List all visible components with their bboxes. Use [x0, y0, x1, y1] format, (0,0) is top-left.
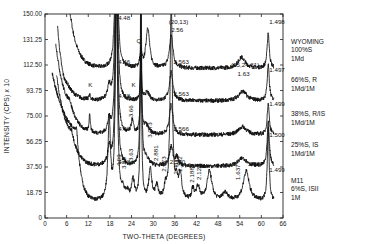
peak-label: 2.56 — [171, 26, 184, 33]
sample-label: 6%S, ISII — [291, 185, 319, 192]
y-tick-label: 93.75 — [26, 87, 42, 94]
sample-label: WYOMING — [291, 38, 324, 45]
sample-label: 66%S, R — [291, 76, 317, 83]
peak-label: 4.48 — [118, 92, 131, 99]
peak-label: Q — [137, 37, 142, 44]
peak-label-rotated: 2.382 — [176, 156, 183, 172]
peak-label: 2.566 — [173, 125, 189, 132]
y-tick-label: 131.25 — [23, 36, 43, 43]
peak-label-rotated: 3.073 — [146, 122, 153, 138]
peak-label: 4.48 — [118, 125, 131, 132]
sample-label: 1Md — [291, 55, 304, 62]
peak-label: K — [88, 81, 93, 88]
x-tick-label: 54 — [236, 220, 244, 227]
sample-label: 100%S — [291, 46, 313, 53]
y-tick-label: 112.50 — [23, 61, 42, 68]
peak-label: 1.497 — [269, 66, 285, 73]
peak-label-rotated: 2.673 — [160, 156, 167, 172]
x-axis: 0612182430364248546066 — [43, 14, 287, 227]
peak-label-rotated: 1.637 — [234, 164, 241, 180]
peak-label: 1.498 — [269, 18, 285, 25]
y-tick-label: 18.75 — [26, 189, 42, 196]
y-axis-title: INTENSITY (CPS) x 10 — [3, 79, 11, 154]
sample-label: 25%S, IS — [291, 141, 319, 148]
peak-label: (15,24,31) — [231, 61, 259, 68]
y-tick-label: 56.25 — [26, 138, 42, 145]
peak-label: 1.500 — [269, 131, 285, 138]
peak-label: (20,13) — [169, 18, 189, 25]
peak-label-rotated: 3.85 — [120, 156, 127, 169]
peak-label: 4.48 — [118, 14, 131, 21]
peak-label: 1.499 — [269, 100, 285, 107]
xrd-chart: 018.7537.5056.2575.0093.75112.50131.2515… — [0, 0, 381, 244]
x-tick-label: 42 — [193, 220, 201, 227]
y-tick-label: 75.00 — [26, 112, 42, 119]
x-tick-label: 48 — [215, 220, 223, 227]
x-tick-label: 30 — [150, 220, 158, 227]
y-tick-label: 150.00 — [23, 10, 43, 17]
sample-label: 1Md/1M — [291, 85, 315, 92]
peak-label-rotated: 3.66 — [127, 105, 134, 118]
x-axis-title: TWO-THETA (DEGREES) — [123, 233, 206, 241]
sample-label: 1M — [291, 194, 300, 201]
peak-label: 2.563 — [173, 58, 189, 65]
trace-line — [57, 11, 274, 168]
y-axis: 018.7537.5056.2575.0093.75112.50131.2515… — [23, 10, 283, 221]
x-tick-label: 12 — [85, 220, 93, 227]
x-tick-label: 6 — [65, 220, 69, 227]
sample-label: 1Md/1M — [291, 150, 315, 157]
sample-label: 38%S, R/IS — [291, 110, 326, 117]
peak-label: 1.58 — [248, 160, 261, 167]
peak-label-rotated: 2.881 — [152, 145, 159, 161]
peak-label: 2.563 — [173, 90, 189, 97]
x-tick-label: 36 — [171, 220, 179, 227]
x-tick-label: 18 — [106, 220, 114, 227]
x-tick-label: 0 — [43, 220, 47, 227]
peak-label-rotated: 2.188 — [188, 167, 195, 183]
sample-labels: WYOMING100%S1Md66%S, R1Md/1M38%S, R/IS1M… — [291, 38, 326, 201]
x-tick-label: 66 — [279, 220, 287, 227]
x-tick-label: 24 — [128, 220, 136, 227]
peak-label: K — [132, 81, 137, 88]
peak-label-rotated: 3.63 — [127, 148, 134, 161]
peak-label: 4.46 — [118, 58, 131, 65]
y-tick-label: 37.50 — [26, 163, 42, 170]
peak-label: 1.63 — [238, 70, 251, 77]
peak-label-rotated: 2.128 — [195, 164, 202, 180]
peak-label: 1.499 — [269, 166, 285, 173]
y-tick-label: 0 — [38, 214, 42, 221]
sample-label: 1Md/1M — [291, 119, 315, 126]
sample-label: M11 — [291, 177, 304, 184]
x-tick-label: 60 — [258, 220, 266, 227]
